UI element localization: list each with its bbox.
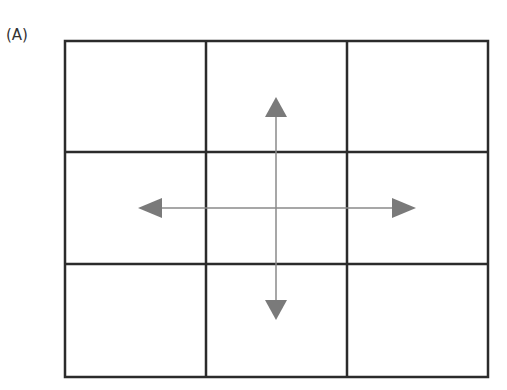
arrow-left-icon [138, 198, 162, 218]
arrow-up-icon [265, 97, 287, 117]
arrow-down-icon [265, 300, 287, 320]
grid-diagram [0, 0, 507, 390]
arrow-right-icon [392, 198, 416, 218]
arrows [138, 97, 416, 320]
